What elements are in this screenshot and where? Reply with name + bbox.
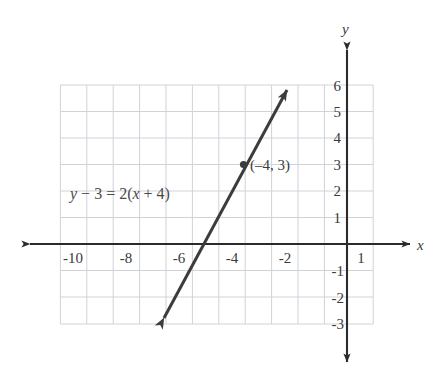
y-tick-label-6: 6 <box>334 78 342 94</box>
line-y-minus-3-equals-2x-plus-8 <box>164 90 287 318</box>
point-label: (–4, 3) <box>250 157 290 174</box>
figure-canvas: x y -10 -8 -6 -4 -2 1 6 5 4 3 2 1 -1 -2 … <box>0 0 438 375</box>
x-tick-label--10: -10 <box>63 250 83 266</box>
x-tick-label--2: -2 <box>279 250 292 266</box>
coordinate-plane-graph: x y -10 -8 -6 -4 -2 1 6 5 4 3 2 1 -1 -2 … <box>0 0 438 375</box>
y-tick-label-1: 1 <box>334 210 342 226</box>
x-tick-labels: -10 -8 -6 -4 -2 1 <box>63 250 365 266</box>
equation-var-x: x <box>131 185 139 202</box>
y-tick-label--1: -1 <box>332 263 345 279</box>
x-tick-label-1: 1 <box>357 250 365 266</box>
y-axis-label: y <box>340 21 349 37</box>
y-tick-label--3: -3 <box>332 316 345 332</box>
equation-mid: − 3 = 2( <box>77 185 132 203</box>
y-tick-label--2: -2 <box>332 290 345 306</box>
equation-tail: + 4) <box>140 185 170 203</box>
grid-lines <box>60 85 373 324</box>
y-tick-label-4: 4 <box>334 130 342 146</box>
y-tick-label-2: 2 <box>334 183 342 199</box>
x-axis-label: x <box>416 237 424 253</box>
clipped-top-text <box>0 0 180 12</box>
x-tick-label--4: -4 <box>226 250 239 266</box>
marked-point-dot <box>240 161 247 168</box>
x-tick-label--8: -8 <box>120 250 133 266</box>
x-tick-label--6: -6 <box>173 250 186 266</box>
y-tick-label-3: 3 <box>334 157 342 173</box>
plotted-line <box>164 90 287 318</box>
equation-label: y − 3 = 2(x + 4) <box>68 185 170 203</box>
y-tick-labels: 6 5 4 3 2 1 -1 -2 -3 <box>332 78 345 332</box>
y-tick-label-5: 5 <box>334 104 342 120</box>
